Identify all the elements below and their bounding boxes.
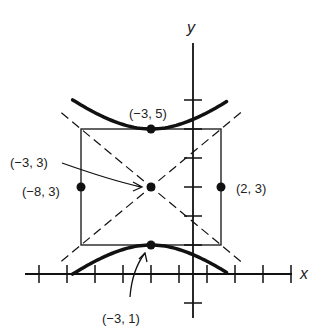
point-label-bottom-vertex: (−3, 1) — [102, 311, 140, 326]
rect-left-point — [77, 183, 86, 192]
bottom-pointer-arrow — [130, 253, 145, 297]
y-axis-label: y — [186, 19, 196, 36]
hyperbola-diagram: x y (−3, 5) (−3, 3) (−8, 3) (2, 3) (−3, … — [0, 0, 325, 336]
point-label-left-end: (−8, 3) — [22, 184, 60, 199]
point-label-top-vertex: (−3, 5) — [129, 106, 167, 121]
vertex-top-point — [147, 125, 156, 134]
center-point — [147, 183, 156, 192]
x-axis-label: x — [299, 265, 309, 282]
vertex-bottom-point — [147, 241, 156, 250]
rect-right-point — [217, 183, 226, 192]
center-pointer-arrow — [62, 163, 141, 187]
point-label-center: (−3, 3) — [10, 155, 48, 170]
point-label-right-end: (2, 3) — [236, 181, 266, 196]
